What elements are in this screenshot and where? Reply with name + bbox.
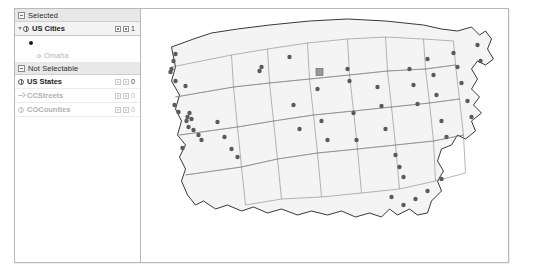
city-marker[interactable]: [287, 55, 291, 59]
selected-city-marker-omaha[interactable]: [316, 69, 323, 76]
tree-feature-label: Omaha: [44, 51, 69, 60]
city-marker[interactable]: [465, 99, 469, 103]
selectable-checkbox[interactable]: [123, 79, 129, 85]
layer-counts: 0: [115, 78, 137, 85]
selected-count: 0: [131, 92, 137, 99]
city-marker[interactable]: [291, 103, 295, 107]
city-marker[interactable]: [439, 177, 443, 181]
city-marker[interactable]: [184, 119, 188, 123]
city-marker[interactable]: [451, 51, 455, 55]
globe-layer-icon: [23, 26, 29, 32]
visible-checkbox[interactable]: [115, 79, 121, 85]
city-marker[interactable]: [413, 197, 417, 201]
city-marker[interactable]: [171, 59, 175, 63]
city-marker[interactable]: [354, 138, 358, 142]
city-marker[interactable]: [383, 127, 387, 131]
layer-counts: 1: [115, 25, 137, 32]
city-marker[interactable]: [397, 165, 401, 169]
selected-count: 0: [131, 106, 137, 113]
city-marker[interactable]: [183, 84, 187, 88]
tree-layer-label: US Cities: [32, 24, 65, 33]
city-marker[interactable]: [411, 83, 415, 87]
visible-checkbox[interactable]: [115, 107, 121, 113]
city-marker[interactable]: [375, 85, 379, 89]
visible-checkbox[interactable]: [115, 26, 121, 32]
selectable-checkbox[interactable]: [123, 26, 129, 32]
city-marker[interactable]: [173, 79, 177, 83]
city-marker[interactable]: [325, 138, 329, 142]
city-marker[interactable]: [222, 135, 226, 139]
layer-symbol-row: [15, 36, 140, 49]
city-marker[interactable]: [173, 52, 177, 56]
city-marker[interactable]: [439, 119, 443, 123]
tree-group-label: Not Selectable: [28, 64, 78, 73]
visible-checkbox[interactable]: [115, 93, 121, 99]
selected-count: 1: [131, 25, 137, 32]
city-marker[interactable]: [229, 147, 233, 151]
tree-layer-ccstreets[interactable]: CCStreets 0: [15, 89, 140, 103]
point-symbol-swatch: [29, 41, 33, 45]
city-marker[interactable]: [455, 65, 459, 69]
city-marker[interactable]: [187, 111, 191, 115]
point-feature-icon: [37, 54, 41, 58]
city-marker[interactable]: [425, 57, 429, 61]
city-marker[interactable]: [186, 125, 190, 129]
city-marker[interactable]: [257, 69, 261, 73]
map-view[interactable]: [141, 9, 508, 262]
city-marker[interactable]: [189, 117, 193, 121]
tree-layer-us-states[interactable]: US States 0: [15, 75, 140, 89]
layer-counts: 0: [115, 106, 137, 113]
selectable-checkbox[interactable]: [123, 107, 129, 113]
city-marker[interactable]: [319, 119, 323, 123]
globe-layer-icon: [18, 107, 24, 113]
city-marker[interactable]: [345, 67, 349, 71]
selectable-checkbox[interactable]: [123, 93, 129, 99]
city-marker[interactable]: [168, 70, 172, 74]
city-marker[interactable]: [180, 146, 184, 150]
city-marker[interactable]: [176, 110, 180, 114]
city-marker[interactable]: [196, 133, 200, 137]
city-marker[interactable]: [425, 189, 429, 193]
selected-count: 0: [131, 78, 137, 85]
city-marker[interactable]: [459, 81, 463, 85]
collapse-expander-icon[interactable]: [18, 65, 25, 72]
collapse-expander-icon[interactable]: [18, 12, 25, 19]
city-marker[interactable]: [407, 67, 411, 71]
city-marker[interactable]: [172, 103, 176, 107]
city-marker[interactable]: [297, 127, 301, 131]
selected-city-marker[interactable]: [316, 69, 323, 76]
tree-layer-cocounties[interactable]: COCounties 0: [15, 103, 140, 117]
tree-feature-omaha[interactable]: Omaha: [15, 49, 140, 62]
tree-group-selected[interactable]: Selected: [15, 9, 140, 22]
city-marker[interactable]: [431, 73, 435, 77]
tree-group-label: Selected: [28, 11, 58, 20]
city-marker[interactable]: [475, 43, 479, 47]
city-marker[interactable]: [315, 87, 319, 91]
us-states-map[interactable]: [141, 9, 508, 262]
city-marker[interactable]: [401, 203, 405, 207]
city-marker[interactable]: [478, 59, 482, 63]
state-polygons: [172, 19, 494, 217]
tree-layer-us-cities[interactable]: US Cities 1: [15, 22, 140, 36]
city-marker[interactable]: [259, 65, 263, 69]
city-marker[interactable]: [347, 79, 351, 83]
city-marker[interactable]: [191, 128, 195, 132]
city-marker[interactable]: [393, 153, 397, 157]
city-marker[interactable]: [401, 175, 405, 179]
city-marker[interactable]: [185, 115, 189, 119]
city-marker[interactable]: [351, 111, 355, 115]
city-marker[interactable]: [235, 155, 239, 159]
city-marker[interactable]: [389, 195, 393, 199]
city-marker[interactable]: [434, 93, 438, 97]
layer-tree-panel: Selected US Cities 1 Omaha Not Selectabl…: [15, 9, 141, 262]
city-marker[interactable]: [469, 115, 473, 119]
tree-group-not-selectable[interactable]: Not Selectable: [15, 62, 140, 75]
city-marker[interactable]: [199, 138, 203, 142]
city-marker[interactable]: [215, 120, 219, 124]
city-marker[interactable]: [444, 135, 448, 139]
city-marker[interactable]: [379, 104, 383, 108]
triangle-open-icon[interactable]: [18, 27, 22, 32]
city-marker[interactable]: [415, 102, 419, 106]
tree-layer-label: US States: [27, 77, 62, 86]
arrow-layer-icon: [18, 93, 24, 99]
